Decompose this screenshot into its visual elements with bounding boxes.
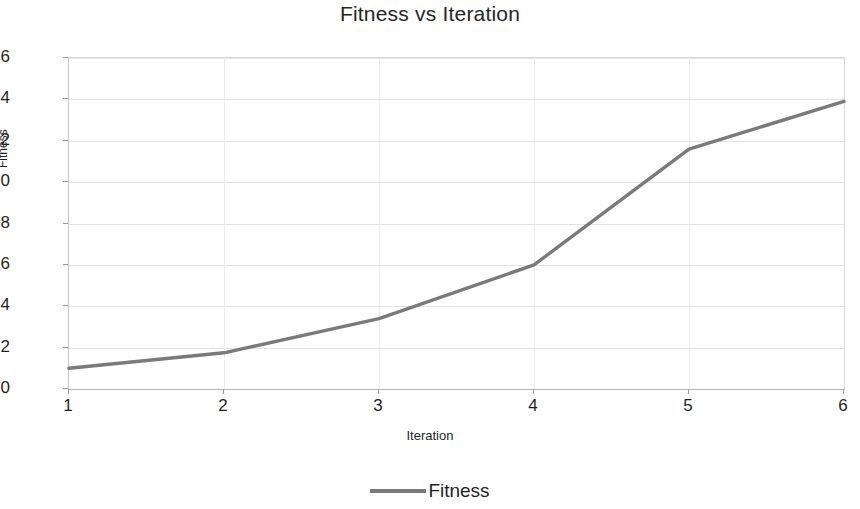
y-axis-tick-mark (63, 140, 68, 141)
y-axis-tick-mark (63, 98, 68, 99)
chart-legend: Fitness (0, 481, 860, 500)
x-axis-title: Iteration (0, 428, 860, 443)
series-plot (69, 58, 844, 389)
series-line-fitness (69, 101, 844, 368)
x-axis-tick-label: 1 (48, 396, 88, 416)
y-axis-tick-label: 12 (0, 130, 10, 150)
y-axis-tick-label: 10 (0, 171, 10, 191)
y-axis-tick-label: 14 (0, 88, 10, 108)
plot-inner (69, 58, 844, 389)
y-axis-tick-label: 16 (0, 47, 10, 67)
x-axis-tick-mark (688, 389, 689, 394)
y-axis-tick-label: 4 (0, 295, 10, 315)
y-axis-tick-label: 8 (0, 213, 10, 233)
y-axis-tick-label: 2 (0, 337, 10, 357)
y-axis-tick-mark (63, 305, 68, 306)
x-axis-tick-label: 2 (203, 396, 243, 416)
x-axis-tick-mark (378, 389, 379, 394)
y-axis-tick-mark (63, 223, 68, 224)
x-axis-tick-label: 3 (358, 396, 398, 416)
x-axis-tick-mark (533, 389, 534, 394)
y-axis-tick-mark (63, 181, 68, 182)
y-axis-tick-mark (63, 264, 68, 265)
y-axis-tick-mark (63, 57, 68, 58)
x-axis-tick-mark (68, 389, 69, 394)
legend-line-swatch-icon (370, 489, 426, 493)
x-axis-tick-mark (843, 389, 844, 394)
y-axis-tick-mark (63, 347, 68, 348)
fitness-vs-iteration-chart: Fitness vs Iteration Fitness 02468101214… (0, 0, 860, 509)
plot-area (68, 57, 845, 390)
chart-title: Fitness vs Iteration (0, 2, 860, 26)
legend-label-fitness: Fitness (428, 481, 489, 500)
y-axis-tick-label: 6 (0, 254, 10, 274)
y-axis-tick-label: 0 (0, 378, 10, 398)
legend-entry-fitness: Fitness (370, 481, 489, 500)
x-axis-tick-label: 5 (668, 396, 708, 416)
x-axis-tick-label: 4 (513, 396, 553, 416)
x-axis-tick-label: 6 (823, 396, 860, 416)
x-axis-tick-mark (223, 389, 224, 394)
